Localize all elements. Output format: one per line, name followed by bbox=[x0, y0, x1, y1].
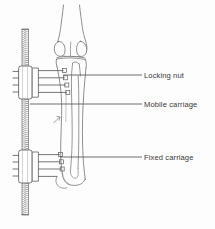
anatomy-group bbox=[54, 5, 87, 185]
mobile-carriage-pins bbox=[38, 71, 66, 93]
mobile-carriage-plate bbox=[32, 68, 38, 97]
fixator-illustration bbox=[0, 0, 215, 229]
mobile-carriage-block bbox=[19, 66, 33, 99]
fixed-carriage-block bbox=[19, 150, 33, 183]
fixed-carriage-pins bbox=[38, 155, 61, 177]
femur-bone bbox=[54, 5, 87, 57]
fixed-carriage-assembly bbox=[13, 150, 67, 188]
label-locking-nut: Locking nut bbox=[144, 72, 184, 80]
locking-nut-ribs bbox=[13, 71, 19, 92]
fixed-carriage-plate bbox=[32, 152, 38, 181]
fibula-bone bbox=[70, 62, 80, 178]
label-mobile-carriage: Mobile carriage bbox=[144, 101, 197, 109]
threaded-rod bbox=[21, 29, 29, 215]
mobile-pin-collars bbox=[62, 69, 69, 95]
fixed-carriage-ribs bbox=[13, 155, 19, 176]
leader-lines bbox=[30, 75, 142, 157]
knee-joint-line bbox=[56, 56, 86, 68]
fracture-marker bbox=[54, 116, 60, 122]
label-fixed-carriage: Fixed carriage bbox=[144, 154, 194, 162]
figure-container: Locking nut Mobile carriage Fixed carria… bbox=[0, 0, 215, 229]
